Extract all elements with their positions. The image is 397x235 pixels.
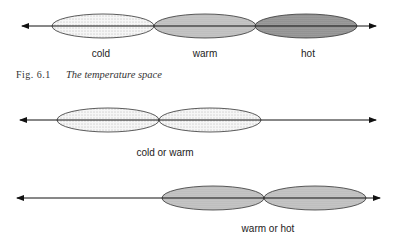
figure-caption: Fig. 6.1 The temperature space — [16, 69, 162, 80]
figure-caption-text: The temperature space — [66, 69, 162, 80]
label-hot: hot — [301, 48, 315, 59]
label-warm-or-hot: warm or hot — [241, 223, 295, 234]
label-cold: cold — [92, 48, 110, 59]
temperature-diagram: cold warm hot Fig. 6.1 The temperature s… — [0, 0, 397, 235]
label-warm: warm — [192, 48, 217, 59]
label-cold-or-warm: cold or warm — [136, 147, 193, 158]
diagram-warm-or-hot: warm or hot — [17, 186, 380, 234]
figure-number: Fig. 6.1 — [16, 69, 51, 80]
diagram-temperature-space: cold warm hot — [22, 14, 376, 59]
diagram-cold-or-warm: cold or warm — [20, 108, 376, 158]
